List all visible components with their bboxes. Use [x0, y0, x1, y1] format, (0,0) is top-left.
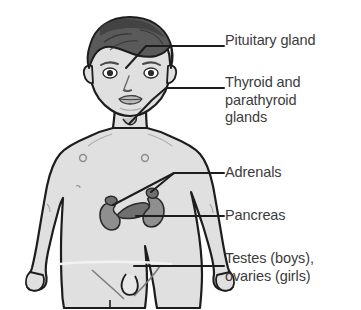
- left-pupil: [107, 70, 113, 76]
- left-hand: [26, 272, 44, 291]
- endocrine-diagram-page: Pituitary gland Thyroid and parathyroid …: [0, 0, 361, 310]
- label-adrenals: Adrenals: [225, 164, 281, 182]
- label-testes-ovaries: Testes (boys), ovaries (girls): [225, 250, 314, 285]
- label-pancreas: Pancreas: [225, 207, 285, 225]
- label-pituitary-gland: Pituitary gland: [225, 32, 315, 50]
- right-pupil: [148, 70, 154, 76]
- label-thyroid-parathyroid-glands: Thyroid and parathyroid glands: [225, 74, 300, 127]
- body-group: [26, 17, 234, 308]
- gonad-region: [122, 274, 138, 295]
